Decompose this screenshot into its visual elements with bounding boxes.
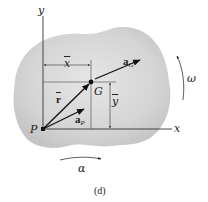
- alpha-rotation-arrow: [60, 157, 101, 160]
- a-p-label: aP: [75, 114, 85, 127]
- r-bar-label: r: [56, 94, 61, 105]
- a-g-label: aG: [123, 56, 134, 69]
- x-axis-label: x: [174, 123, 180, 134]
- rigid-body-kinematics-diagram: [0, 0, 208, 202]
- a-g-label-subscript: G: [129, 61, 134, 69]
- a-p-label-subscript: P: [81, 119, 85, 127]
- y-axis-label: y: [38, 5, 44, 16]
- point-p: [41, 127, 45, 131]
- point-g: [89, 80, 94, 85]
- point-g-label: G: [94, 86, 103, 97]
- omega-label: ω: [187, 73, 196, 84]
- figure-caption: (d): [94, 186, 106, 196]
- point-p-label: P: [30, 124, 37, 135]
- alpha-label: α: [78, 163, 85, 174]
- omega-rotation-arrow: [177, 56, 184, 100]
- y-bar-label: y: [112, 96, 118, 107]
- x-bar-label: x: [64, 58, 70, 69]
